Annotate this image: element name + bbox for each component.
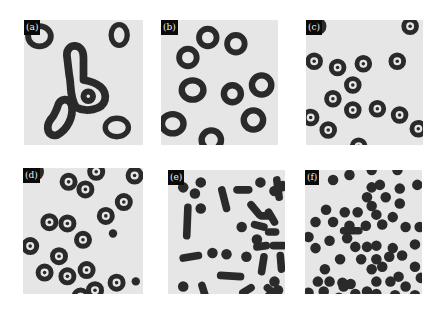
dot-domain [414,222,422,233]
dot-domain [338,281,349,292]
ring-core [376,107,380,111]
dot-domain [366,264,377,275]
dot-domain [371,240,382,251]
dot-domain [350,242,361,253]
ring-core [326,128,330,132]
dot-domain [395,198,406,209]
ring-core [57,254,61,258]
dot-domain [328,175,339,186]
dot-domain [387,212,398,223]
rod-domain [280,256,281,270]
dot-domain [207,248,218,259]
dot-domain [178,281,189,292]
dot-domain [371,289,382,294]
ring-domain [48,100,72,136]
ring-domain [252,75,271,94]
dot-domain [340,207,351,218]
rod-domain [221,275,241,276]
ring-core [408,24,412,28]
ring-core [81,238,85,242]
dot-domain [377,261,388,272]
rod-domain [202,285,206,294]
ring-core [309,116,313,120]
rod-domain [269,212,275,222]
ring-domain [352,140,365,145]
ring-core [417,127,421,131]
ring-domain [182,80,204,99]
ring-domain [179,49,197,67]
rod-domain [243,288,251,293]
dot-domain [252,234,263,245]
dot-domain [344,221,355,232]
dot-domain [362,286,373,294]
rod-domain [262,257,264,272]
dot-domain [321,204,332,215]
panel-label-f: (f) [305,170,319,185]
rod-domain [187,207,188,236]
panel-label-d: (d) [23,168,40,183]
ring-core [351,83,355,87]
ring-domain [224,85,241,102]
dot-domain [377,219,388,230]
dot-domain [241,252,252,263]
dot-domain [392,170,403,175]
dot-domain [410,290,421,294]
panel-b: (b) [161,20,278,145]
panel-label-b: (b) [161,20,178,35]
ring-domain [74,290,87,294]
dot-domain [410,239,421,250]
dot-domain [412,180,422,191]
dot-domain [371,276,382,287]
ring-core [331,97,335,101]
dot-domain [350,289,361,294]
dot-domain [400,281,411,292]
panel-d: (d) [23,168,143,294]
dot-domain [109,229,117,237]
ring-domain [111,25,127,46]
ring-core [67,180,71,184]
panel-d-pattern [23,168,143,294]
ring-domain [244,110,263,129]
dot-domain [195,177,206,188]
ring-domain [105,118,128,136]
ring-core [84,188,88,192]
dot-domain [366,182,377,193]
panel-f-pattern [305,170,422,294]
panel-label-e: (e) [168,170,184,185]
panel-c: (c) [306,20,423,145]
ring-domain [84,91,94,101]
dot-domain [397,250,408,261]
ring-core [66,222,70,226]
ring-core [48,220,52,224]
dot-domain [384,252,395,263]
dot-domain [342,233,353,244]
dot-domain [310,217,321,228]
panel-a-pattern [24,20,143,145]
ring-core [122,200,126,204]
panel-a: (a) [24,20,143,145]
dot-domain [305,232,314,243]
rod-domain [255,225,264,227]
dot-domain [385,276,396,287]
rod-domain [251,205,259,215]
panel-f: (f) [305,170,422,294]
ring-core [362,62,366,66]
ring-domain [162,114,184,133]
dot-domain [334,292,345,294]
ring-core [133,174,137,178]
ring-core [85,268,89,272]
dot-domain [236,222,247,233]
ring-core [357,144,361,145]
ring-core [312,59,316,63]
dot-domain [310,243,321,254]
rod-domain [183,256,198,258]
dot-domain [366,170,377,175]
dot-domain [132,277,140,285]
dot-domain [361,221,372,232]
ring-core [396,59,400,63]
dot-domain [335,254,346,265]
ring-core [115,281,119,285]
ring-core [28,244,32,248]
dot-domain [362,242,373,253]
dot-domain [221,249,232,260]
